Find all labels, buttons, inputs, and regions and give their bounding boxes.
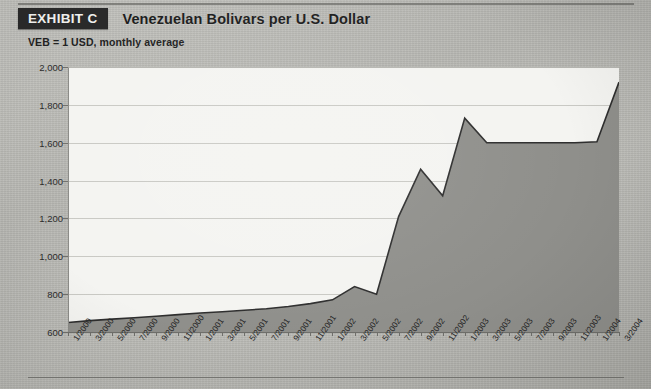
x-axis-tick xyxy=(310,332,311,336)
x-axis-tick xyxy=(244,332,245,336)
x-axis-tick xyxy=(68,332,69,336)
x-axis-tick xyxy=(222,332,223,336)
plot-area xyxy=(68,67,619,332)
x-axis-tick xyxy=(134,332,135,336)
x-axis-tick xyxy=(597,332,598,336)
x-axis-tick xyxy=(443,332,444,336)
x-axis-tick xyxy=(421,332,422,336)
x-axis-tick xyxy=(156,332,157,336)
x-axis-tick xyxy=(377,332,378,336)
x-axis-tick xyxy=(332,332,333,336)
y-axis-ticks xyxy=(0,67,68,332)
x-axis-tick xyxy=(399,332,400,336)
x-axis-tick xyxy=(112,332,113,336)
x-axis-tick xyxy=(575,332,576,336)
x-axis-tick xyxy=(619,332,620,336)
x-axis-tick xyxy=(531,332,532,336)
x-axis-tick xyxy=(90,332,91,336)
chart-container: 6008001,0001,2001,4001,6001,8002,000 1/2… xyxy=(0,0,651,389)
x-axis-tick xyxy=(355,332,356,336)
x-axis-tick xyxy=(200,332,201,336)
x-axis-tick xyxy=(465,332,466,336)
x-axis-tick xyxy=(553,332,554,336)
x-axis-tick xyxy=(487,332,488,336)
x-axis-tick xyxy=(178,332,179,336)
x-axis-tick xyxy=(509,332,510,336)
plot-border xyxy=(68,67,619,332)
x-axis-tick xyxy=(288,332,289,336)
x-axis-tick-label: 3/2004 xyxy=(622,316,645,343)
footer-rule xyxy=(28,377,624,378)
x-axis-tick xyxy=(266,332,267,336)
